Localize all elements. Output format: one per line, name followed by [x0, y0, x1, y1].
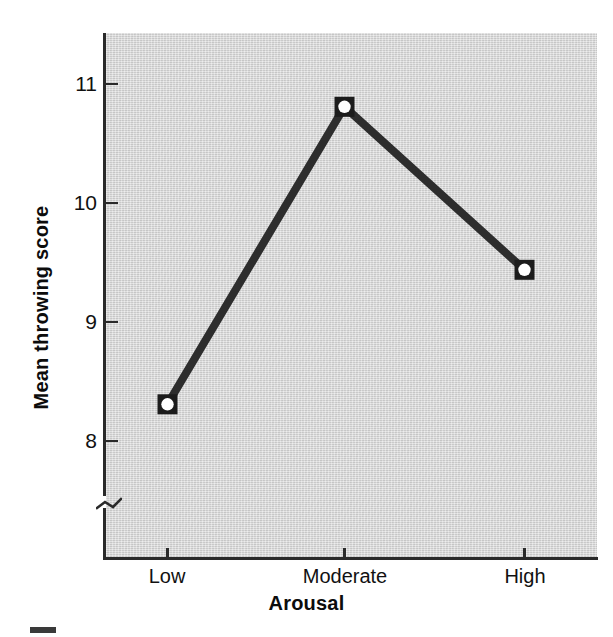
x-tick-label-low: Low	[149, 565, 186, 588]
y-tick-label-10: 10	[55, 192, 97, 213]
x-tick-label-moderate: Moderate	[303, 565, 388, 588]
axis-break-icon	[96, 488, 122, 514]
x-tick-low	[166, 548, 169, 558]
plot-area	[106, 33, 597, 558]
y-tick-label-11: 11	[55, 73, 97, 94]
x-axis-title: Arousal	[0, 592, 613, 615]
x-tick-label-high: High	[504, 565, 545, 588]
y-tick-10	[106, 202, 118, 204]
y-tick-label-9: 9	[55, 311, 97, 332]
y-tick-label-8: 8	[55, 430, 97, 451]
x-tick-moderate	[343, 548, 346, 558]
y-axis-line-lower	[103, 508, 106, 560]
y-tick-9	[106, 321, 118, 323]
y-axis-line-upper	[103, 33, 106, 496]
y-tick-11	[106, 83, 118, 85]
caption-fragment	[30, 627, 56, 633]
y-axis-title: Mean throwing score	[30, 168, 53, 448]
y-tick-8	[106, 440, 118, 442]
figure-chart: 11 10 9 8 Low Moderate High Arousal Mean…	[0, 0, 613, 637]
x-tick-high	[523, 548, 526, 558]
